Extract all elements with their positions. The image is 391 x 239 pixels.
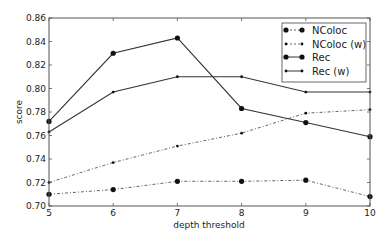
y-tick-label: 0.76: [26, 131, 46, 141]
series-rec-marker-icon: [239, 106, 244, 111]
y-tick-label: 0.74: [26, 154, 46, 164]
y-tick-label: 0.70: [26, 201, 46, 211]
x-axis-label: depth threshold: [173, 220, 244, 230]
line-chart: 56789100.700.720.740.760.780.800.820.840…: [0, 0, 391, 239]
legend-item-rec-marker-icon: [283, 54, 288, 59]
legend-item-ncoloc-marker-icon: [283, 27, 288, 32]
series-rec-marker-icon: [111, 51, 116, 56]
series-ncoloc-marker-icon: [303, 178, 308, 183]
series-ncoloc-w-marker-icon: [112, 161, 115, 164]
x-tick-label: 7: [175, 208, 181, 218]
x-tick-label: 9: [303, 208, 309, 218]
legend-label: NColoc (w): [312, 39, 366, 50]
legend-item-ncoloc-w-marker-icon: [301, 43, 304, 46]
y-axis-label: score: [14, 99, 24, 124]
x-tick-label: 8: [239, 208, 245, 218]
legend: NColocNColoc (w)RecRec (w): [282, 23, 366, 82]
legend-item-rec-marker-icon: [299, 54, 304, 59]
y-tick-label: 0.84: [26, 37, 46, 47]
legend-item-ncoloc-marker-icon: [299, 27, 304, 32]
legend-label: Rec: [312, 52, 330, 63]
series-rec-marker-icon: [303, 120, 308, 125]
series-ncoloc-w: [48, 108, 372, 184]
y-tick-label: 0.72: [26, 178, 46, 188]
legend-item-ncoloc-w-marker-icon: [285, 43, 288, 46]
legend-item-rec-w-marker-icon: [285, 70, 288, 73]
y-tick-label: 0.86: [26, 13, 46, 23]
series-ncoloc-marker-icon: [239, 179, 244, 184]
series-rec-w-marker-icon: [304, 91, 307, 94]
legend-label: NColoc: [312, 25, 347, 36]
series-ncoloc-marker-icon: [111, 187, 116, 192]
x-tick-label: 10: [364, 208, 376, 218]
legend-item-rec-w-marker-icon: [301, 70, 304, 73]
series-ncoloc-w-marker-icon: [240, 132, 243, 135]
series-rec-marker-icon: [175, 35, 180, 40]
legend-label: Rec (w): [312, 66, 349, 77]
series-ncoloc-w-marker-icon: [304, 112, 307, 115]
x-tick-label: 5: [46, 208, 52, 218]
series-rec-w-marker-icon: [112, 91, 115, 94]
y-tick-label: 0.78: [26, 107, 46, 117]
series-ncoloc-w-marker-icon: [176, 145, 179, 148]
y-tick-label: 0.80: [26, 84, 46, 94]
series-ncoloc: [46, 178, 372, 200]
series-rec-w: [48, 75, 372, 133]
x-tick-label: 6: [110, 208, 116, 218]
series-ncoloc-marker-icon: [175, 179, 180, 184]
y-tick-label: 0.82: [26, 60, 46, 70]
series-rec-w-marker-icon: [176, 75, 179, 78]
series-rec-w-marker-icon: [240, 75, 243, 78]
